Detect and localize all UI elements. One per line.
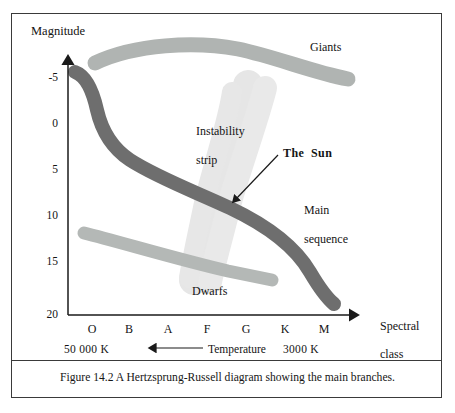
temperature-left-value: 50 000 K: [64, 343, 109, 356]
y-axis-title: Magnitude: [31, 24, 85, 38]
annotation-main-sequence-line2: sequence: [304, 232, 348, 246]
figure-caption: Figure 14.2 A Hertzsprung-Russell diagra…: [0, 371, 455, 384]
annotation-instability-line2: strip: [196, 153, 217, 167]
y-tick-label-1: 0: [30, 117, 58, 130]
x-tick-label-O: O: [81, 323, 103, 336]
band-dwarfs: [84, 233, 272, 280]
temperature-axis-label: Temperature: [208, 343, 266, 356]
x-tick-label-B: B: [118, 323, 140, 336]
x-tick-label-G: G: [235, 323, 257, 336]
annotation-instability-strip: Instability strip: [178, 110, 245, 182]
y-tick-label-0: -5: [30, 71, 58, 84]
y-tick-label-2: 5: [30, 163, 58, 176]
y-tick-label-3: 10: [30, 209, 58, 222]
annotation-main-sequence-line1: Main: [304, 203, 329, 217]
annotation-main-sequence: Main sequence: [286, 189, 348, 261]
x-tick-label-A: A: [157, 323, 179, 336]
y-tick-label-5: 20: [30, 308, 58, 321]
x-axis-title: Spectral class: [362, 305, 419, 376]
x-tick-label-F: F: [196, 323, 218, 336]
figure-root: Magnitude Spectral class -5 0 5 10 15 20…: [0, 0, 455, 413]
x-tick-label-M: M: [313, 323, 335, 336]
x-axis-title-line2: class: [380, 347, 403, 361]
temperature-right-value: 3000 K: [283, 343, 319, 356]
x-axis-title-line1: Spectral: [380, 319, 419, 333]
y-tick-label-4: 15: [30, 255, 58, 268]
x-tick-label-K: K: [274, 323, 296, 336]
annotation-instability-line1: Instability: [196, 124, 245, 138]
hr-diagram-plot: Magnitude Spectral class -5 0 5 10 15 20…: [0, 0, 455, 413]
annotation-giants: Giants: [310, 41, 341, 54]
annotation-the-sun: The Sun: [283, 147, 332, 160]
annotation-dwarfs: Dwarfs: [192, 285, 227, 298]
